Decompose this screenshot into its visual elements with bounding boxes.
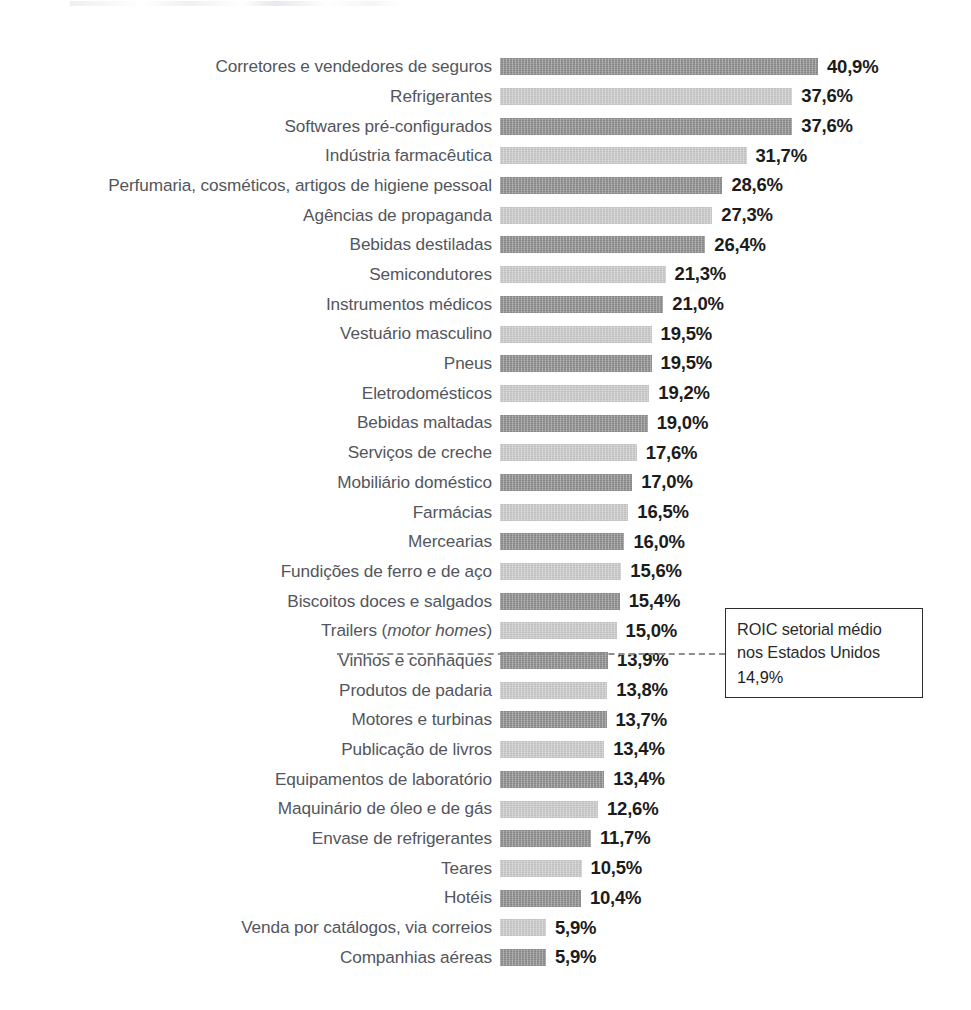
bar: [500, 504, 628, 521]
bar: [500, 890, 581, 907]
scan-artifact: [70, 1, 400, 6]
bar-row: Hotéis10,4%: [0, 883, 971, 913]
bar-row: Serviços de creche17,6%: [0, 438, 971, 468]
roic-bar-chart: Corretores e vendedores de seguros40,9%R…: [0, 0, 971, 1010]
category-label: Envase de refrigerantes: [0, 830, 492, 847]
category-label: Indústria farmacêutica: [0, 147, 492, 164]
bar-row: Motores e turbinas13,7%: [0, 705, 971, 735]
value-label: 11,7%: [600, 829, 650, 848]
bar: [500, 563, 621, 580]
bar-and-value: 28,6%: [500, 171, 783, 201]
category-label: Hotéis: [0, 889, 492, 906]
bar-and-value: 16,0%: [500, 527, 685, 557]
bar-and-value: 15,0%: [500, 616, 677, 646]
category-label: Softwares pré-configurados: [0, 118, 492, 135]
bar: [500, 88, 792, 105]
value-label: 17,0%: [641, 473, 692, 492]
bar: [500, 207, 712, 224]
bar-row: Eletrodomésticos19,2%: [0, 379, 971, 409]
category-label: Bebidas maltadas: [0, 414, 492, 431]
bar: [500, 236, 705, 253]
value-label: 12,6%: [607, 800, 658, 819]
bar-row: Farmácias16,5%: [0, 497, 971, 527]
bar-row: Softwares pré-configurados37,6%: [0, 111, 971, 141]
bar-and-value: 15,4%: [500, 586, 680, 616]
bar-row: Equipamentos de laboratório13,4%: [0, 765, 971, 795]
bar: [500, 326, 652, 343]
bar-and-value: 16,5%: [500, 497, 689, 527]
value-label: 15,4%: [629, 592, 680, 611]
value-label: 19,5%: [661, 354, 712, 373]
bar-and-value: 13,4%: [500, 765, 665, 795]
bar: [500, 415, 648, 432]
category-label: Trailers (motor homes): [0, 622, 492, 639]
bar: [500, 266, 666, 283]
bar: [500, 622, 617, 639]
category-label: Refrigerantes: [0, 88, 492, 105]
bar-and-value: 5,9%: [500, 913, 596, 943]
category-label: Pneus: [0, 355, 492, 372]
value-label: 5,9%: [555, 948, 596, 967]
bar-and-value: 19,0%: [500, 408, 708, 438]
value-label: 31,7%: [756, 147, 807, 166]
bar-row: Companhias aéreas5,9%: [0, 943, 971, 973]
bar-row: Vestuário masculino19,5%: [0, 319, 971, 349]
value-label: 16,5%: [637, 503, 688, 522]
bar: [500, 177, 722, 194]
bar-row: Semicondutores21,3%: [0, 260, 971, 290]
bar-and-value: 37,6%: [500, 111, 853, 141]
bar: [500, 860, 582, 877]
bar-row: Refrigerantes37,6%: [0, 82, 971, 112]
bar-row: Teares10,5%: [0, 854, 971, 884]
value-label: 19,0%: [657, 414, 708, 433]
bar-row: Bebidas maltadas19,0%: [0, 408, 971, 438]
category-label: Motores e turbinas: [0, 711, 492, 728]
category-label: Serviços de creche: [0, 444, 492, 461]
category-label: Mercearias: [0, 533, 492, 550]
bar-rows-container: Corretores e vendedores de seguros40,9%R…: [0, 52, 971, 972]
bar-and-value: 19,5%: [500, 319, 712, 349]
category-label: Fundições de ferro e de aço: [0, 563, 492, 580]
value-label: 19,5%: [661, 325, 712, 344]
bar-row: Maquinário de óleo e de gás12,6%: [0, 794, 971, 824]
category-label: Maquinário de óleo e de gás: [0, 800, 492, 817]
bar-and-value: 40,9%: [500, 52, 878, 82]
bar-and-value: 10,5%: [500, 854, 642, 884]
category-label: Publicação de livros: [0, 741, 492, 758]
value-label: 13,7%: [616, 711, 667, 730]
bar-and-value: 27,3%: [500, 200, 773, 230]
value-label: 37,6%: [801, 87, 852, 106]
bar-and-value: 15,6%: [500, 557, 682, 587]
category-label: Companhias aéreas: [0, 949, 492, 966]
bar-and-value: 21,3%: [500, 260, 726, 290]
bar-and-value: 17,0%: [500, 468, 693, 498]
category-label: Agências de propaganda: [0, 207, 492, 224]
bar-and-value: 31,7%: [500, 141, 807, 171]
bar-row: Bebidas destiladas26,4%: [0, 230, 971, 260]
bar: [500, 830, 591, 847]
bar-and-value: 19,5%: [500, 349, 712, 379]
category-label: Teares: [0, 860, 492, 877]
category-label: Eletrodomésticos: [0, 385, 492, 402]
reference-line-callout: ROIC setorial médio nos Estados Unidos 1…: [725, 608, 923, 698]
value-label: 16,0%: [633, 533, 684, 552]
bar-and-value: 13,7%: [500, 705, 667, 735]
category-label: Perfumaria, cosméticos, artigos de higie…: [0, 177, 492, 194]
value-label: 40,9%: [827, 58, 878, 77]
value-label: 5,9%: [555, 919, 596, 938]
bar-row: Mobiliário doméstico17,0%: [0, 468, 971, 498]
bar: [500, 771, 604, 788]
bar: [500, 593, 620, 610]
bar-and-value: 11,7%: [500, 824, 650, 854]
bar-and-value: 26,4%: [500, 230, 766, 260]
bar-row: Mercearias16,0%: [0, 527, 971, 557]
value-label: 15,6%: [630, 562, 681, 581]
bar: [500, 118, 792, 135]
bar-row: Perfumaria, cosméticos, artigos de higie…: [0, 171, 971, 201]
bar-row: Pneus19,5%: [0, 349, 971, 379]
category-label: Corretores e vendedores de seguros: [0, 58, 492, 75]
category-label: Produtos de padaria: [0, 682, 492, 699]
category-label: Bebidas destiladas: [0, 236, 492, 253]
bar-and-value: 37,6%: [500, 82, 853, 112]
bar-and-value: 21,0%: [500, 290, 724, 320]
